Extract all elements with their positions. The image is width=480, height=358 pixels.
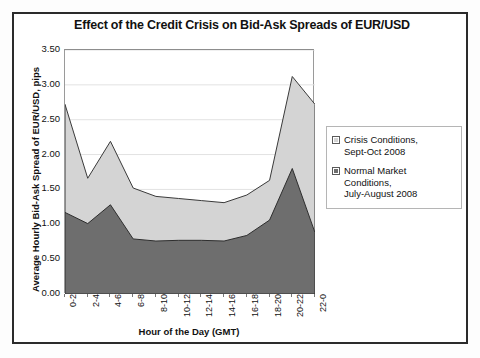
y-axis-tick-labels: 3.503.002.502.001.501.000.500.00 bbox=[20, 49, 60, 293]
legend-item-normal: Normal Market Conditions, July-August 20… bbox=[332, 165, 456, 200]
y-tick-label: 1.50 bbox=[30, 182, 60, 193]
x-tick-label: 18-20 bbox=[273, 294, 283, 328]
legend-label-crisis: Crisis Conditions, Sept-Oct 2008 bbox=[344, 134, 418, 157]
x-tick-mark bbox=[223, 294, 224, 297]
x-tick-label: 0-2 bbox=[68, 294, 78, 328]
x-tick-mark bbox=[109, 294, 110, 297]
x-tick-mark bbox=[178, 294, 179, 297]
chart-screenshot: Effect of the Credit Crisis on Bid-Ask S… bbox=[0, 0, 480, 358]
x-tick-label: 12-14 bbox=[204, 294, 214, 328]
x-axis-title: Hour of the Day (GMT) bbox=[54, 326, 324, 337]
legend-item-crisis: Crisis Conditions, Sept-Oct 2008 bbox=[332, 134, 456, 157]
y-tick-label: 0.50 bbox=[30, 252, 60, 263]
legend-label-normal-line1: Normal Market Conditions, bbox=[344, 165, 406, 188]
x-tick-mark bbox=[291, 294, 292, 297]
x-tick-label: 2-4 bbox=[91, 294, 101, 328]
legend-label-crisis-line2: Sept-Oct 2008 bbox=[344, 146, 405, 157]
y-tick-label: 3.50 bbox=[30, 43, 60, 54]
figure-frame: Effect of the Credit Crisis on Bid-Ask S… bbox=[12, 12, 468, 344]
legend-swatch-fill bbox=[334, 169, 338, 173]
page-title: Effect of the Credit Crisis on Bid-Ask S… bbox=[34, 18, 450, 32]
legend-label-normal: Normal Market Conditions, July-August 20… bbox=[344, 165, 456, 200]
x-tick-label: 6-8 bbox=[136, 294, 146, 328]
legend: Crisis Conditions, Sept-Oct 2008 Normal … bbox=[326, 126, 462, 209]
x-tick-mark bbox=[87, 294, 88, 297]
x-tick-label: 14-16 bbox=[227, 294, 237, 328]
y-tick-label: 2.00 bbox=[30, 148, 60, 159]
x-tick-label: 22-0 bbox=[318, 294, 328, 328]
x-tick-label: 16-18 bbox=[250, 294, 260, 328]
x-tick-mark bbox=[200, 294, 201, 297]
x-tick-mark bbox=[246, 294, 247, 297]
y-tick-label: 3.00 bbox=[30, 78, 60, 89]
x-tick-label: 8-10 bbox=[159, 294, 169, 328]
x-tick-mark bbox=[269, 294, 270, 297]
x-tick-label: 10-12 bbox=[182, 294, 192, 328]
y-tick-label: 0.00 bbox=[30, 287, 60, 298]
legend-swatch-crisis-icon bbox=[332, 136, 340, 144]
legend-label-normal-line2: July-August 2008 bbox=[344, 188, 417, 199]
legend-swatch-normal-icon bbox=[332, 167, 340, 175]
x-tick-label: 4-6 bbox=[113, 294, 123, 328]
x-tick-mark bbox=[132, 294, 133, 297]
x-tick-mark bbox=[64, 294, 65, 297]
x-tick-mark bbox=[155, 294, 156, 297]
y-tick-label: 1.00 bbox=[30, 217, 60, 228]
x-axis-tick-labels: 0-22-44-66-88-1010-1212-1414-1616-1818-2… bbox=[64, 294, 314, 330]
legend-swatch-fill bbox=[334, 138, 338, 142]
plot-area bbox=[64, 49, 314, 293]
x-tick-mark bbox=[314, 294, 315, 297]
y-tick-label: 2.50 bbox=[30, 113, 60, 124]
area-chart-svg bbox=[65, 50, 315, 294]
x-tick-label: 20-22 bbox=[295, 294, 305, 328]
legend-label-crisis-line1: Crisis Conditions, bbox=[344, 134, 418, 145]
